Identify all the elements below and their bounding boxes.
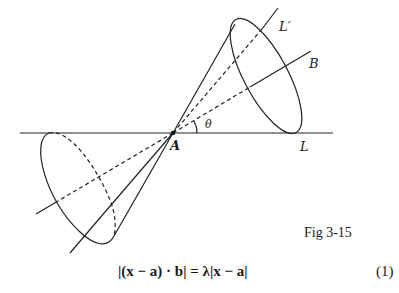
equation-number: (1) (376, 264, 394, 279)
label-a: A (170, 139, 180, 152)
axis-b-lower (36, 201, 58, 214)
right-cone-generator-upper (173, 24, 235, 133)
label-theta: θ (205, 119, 212, 130)
left-cone-generator-lower (114, 133, 173, 236)
left-cone-base-front (41, 133, 114, 244)
double-cone-diagram (0, 0, 399, 293)
axis-b-inner-lower (58, 133, 173, 201)
label-l-prime: L′ (279, 20, 291, 33)
left-cone-base-back (49, 133, 115, 236)
vertex-a-dot (171, 131, 175, 135)
figure-caption: Fig 3-15 (304, 226, 352, 240)
line-l-prime-inner-lower (105, 133, 173, 212)
equation: |(x − a) · b| = λ|x − a| (118, 264, 248, 279)
label-l: L (300, 140, 309, 153)
label-b: B (309, 57, 319, 70)
line-l-prime-lower (70, 212, 105, 253)
line-l-prime-upper (262, 8, 278, 29)
angle-theta-arc (194, 121, 197, 133)
line-l-prime-inner-upper (173, 29, 262, 133)
